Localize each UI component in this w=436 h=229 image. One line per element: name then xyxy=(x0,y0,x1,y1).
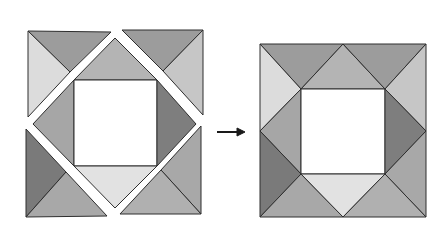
assembled-center-square-piece xyxy=(301,89,385,174)
assembled-block xyxy=(260,44,426,217)
exploded-center-square-piece xyxy=(74,80,157,166)
quilt-diagram xyxy=(0,0,436,229)
arrow-icon xyxy=(217,128,245,136)
exploded-pieces xyxy=(26,30,203,217)
